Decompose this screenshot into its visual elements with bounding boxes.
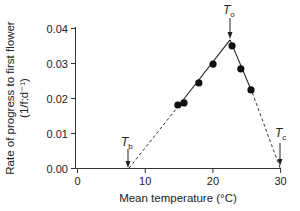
y-axis-title-line2: (1/f:d⁻¹) [18,78,30,118]
x-axis-title: Mean temperature (°C) [119,192,237,204]
data-point [209,60,216,67]
y-axis-title-line1: Rate of progress to first flower [4,21,16,175]
y-tick-label: 0.03 [47,58,68,70]
data-point [195,79,202,86]
x-tick-label: 0 [74,175,80,187]
y-tick-label: 0.04 [47,23,68,35]
data-point [247,86,254,93]
y-axis-title: Rate of progress to first flower (1/f:d⁻… [4,21,30,175]
to-label: To [223,3,235,19]
axes [76,27,282,169]
fitted-rising-line [178,40,230,107]
chart: 0.000.010.020.030.04 0102030 Mean temper… [0,0,300,211]
y-tick-label: 0.00 [47,163,68,175]
x-tick-label: 10 [139,175,151,187]
annotation-tb: Tb [121,135,133,168]
tc-label: Tc [275,126,286,142]
x-tick-label: 20 [207,175,219,187]
data-point [237,65,244,72]
x-ticks: 0102030 [74,169,286,188]
annotation-to: To [223,3,235,39]
y-ticks: 0.000.010.020.030.04 [47,23,76,175]
tb-label: Tb [121,135,133,151]
y-tick-label: 0.01 [47,128,68,140]
y-tick-label: 0.02 [47,93,68,105]
extrapolated-rising-line [129,107,178,168]
fit-lines [129,40,280,168]
data-point [180,99,187,106]
to-arrowhead-icon [228,32,233,39]
data-points [174,42,254,108]
data-point [228,42,235,49]
x-tick-label: 30 [274,175,286,187]
